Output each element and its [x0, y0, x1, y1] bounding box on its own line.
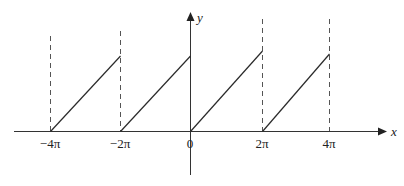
segment-neg2pi-to-0 [121, 56, 191, 132]
segment-2pi-to-4pi [263, 54, 330, 132]
tick-label-0: 0 [187, 136, 194, 151]
tick-label-4pi: 4π [322, 136, 336, 151]
y-axis-label: y [195, 10, 203, 25]
tick-label-neg4pi: −4π [40, 136, 61, 151]
tick-label-neg2pi: −2π [110, 136, 131, 151]
tick-label-2pi: 2π [255, 136, 269, 151]
segment-neg4pi-to-neg2pi [51, 56, 121, 132]
x-axis-label: x [390, 124, 397, 139]
tick-labels: −4π −2π 0 2π 4π [40, 136, 336, 151]
x-axis-arrow-icon [378, 128, 387, 136]
y-axis-arrow-icon [187, 12, 195, 21]
sawtooth-diagram: x y −4π −2π 0 2π 4π [0, 0, 404, 186]
segment-0-to-2pi [191, 51, 263, 132]
